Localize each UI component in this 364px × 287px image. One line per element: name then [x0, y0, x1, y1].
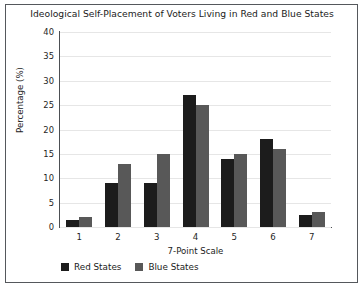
legend-swatch-icon: [135, 263, 143, 271]
x-axis-tick-label: 6: [270, 232, 275, 242]
bar: [79, 217, 92, 227]
y-axis-tick-label: 10: [14, 173, 54, 183]
bar: [273, 149, 286, 227]
x-axis-tick-label: 1: [77, 232, 82, 242]
y-axis-tick-label: 20: [14, 125, 54, 135]
y-axis-tick-label: 40: [14, 27, 54, 37]
bar-group: [144, 32, 170, 227]
bar: [105, 183, 118, 227]
bar: [260, 139, 273, 227]
x-axis-tick-label: 7: [309, 232, 314, 242]
chart-legend: Red StatesBlue States: [61, 262, 199, 272]
bar-group: [260, 32, 286, 227]
legend-swatch-icon: [61, 263, 69, 271]
x-axis-tick-label: 5: [231, 232, 236, 242]
bar: [144, 183, 157, 227]
legend-item: Red States: [61, 262, 121, 272]
bar: [118, 164, 131, 227]
bar: [196, 105, 209, 227]
y-axis-tick-label: 25: [14, 100, 54, 110]
x-axis-tick-label: 4: [193, 232, 198, 242]
x-axis-tick-label: 2: [115, 232, 120, 242]
y-axis-tick-label: 5: [14, 198, 54, 208]
chart-title: Ideological Self-Placement of Voters Liv…: [0, 8, 364, 19]
bar: [66, 220, 79, 227]
legend-label: Blue States: [148, 262, 198, 272]
gridline: [60, 227, 331, 228]
y-axis-tick-label: 15: [14, 149, 54, 159]
bar-group: [105, 32, 131, 227]
bar: [183, 95, 196, 227]
plot-area: [60, 32, 331, 227]
x-axis-tick-label: 3: [154, 232, 159, 242]
bar: [234, 154, 247, 227]
legend-label: Red States: [74, 262, 121, 272]
y-axis-tick-label: 0: [14, 222, 54, 232]
bar: [299, 215, 312, 227]
bar-group: [183, 32, 209, 227]
bar: [157, 154, 170, 227]
bar: [312, 212, 325, 227]
bar-group: [221, 32, 247, 227]
y-axis-tick-labels: 0510152025303540: [12, 32, 54, 227]
legend-item: Blue States: [135, 262, 198, 272]
x-axis-label: 7-Point Scale: [60, 246, 331, 256]
y-axis-tick-label: 30: [14, 76, 54, 86]
bar: [221, 159, 234, 227]
chart-figure: Ideological Self-Placement of Voters Liv…: [0, 0, 364, 287]
bar-group: [299, 32, 325, 227]
bar-group: [66, 32, 92, 227]
y-axis-tick-label: 35: [14, 51, 54, 61]
